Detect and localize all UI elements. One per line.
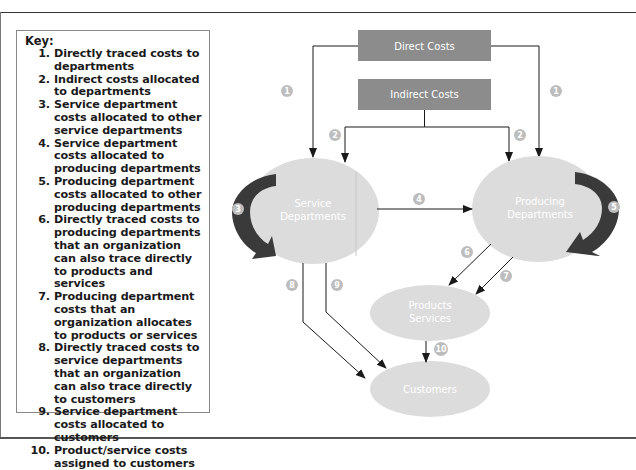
badge-7: 7: [500, 270, 512, 282]
badge-6: 6: [461, 246, 473, 258]
badge-1-left: 1: [281, 85, 293, 97]
badge-9: 9: [331, 279, 343, 291]
svg-text:9: 9: [334, 281, 340, 290]
arrow-2-right: [425, 127, 510, 161]
badge-1-right: 1: [550, 85, 562, 97]
customers-node: Customers: [370, 361, 490, 417]
svg-text:2: 2: [332, 131, 338, 140]
svg-text:5: 5: [611, 203, 617, 212]
producing-departments-label-1: Producing: [515, 196, 565, 207]
products-services-node: Products Services: [370, 285, 490, 341]
customers-label: Customers: [403, 384, 457, 395]
products-services-label-2: Services: [409, 313, 451, 324]
indirect-costs-box: Indirect Costs: [358, 79, 491, 110]
producing-departments-label-2: Departments: [507, 209, 573, 220]
service-departments-label-1: Service: [295, 198, 332, 209]
products-services-label-1: Products: [408, 300, 451, 311]
svg-text:1: 1: [553, 87, 559, 96]
badge-8: 8: [286, 279, 298, 291]
svg-text:1: 1: [284, 87, 290, 96]
arrow-1-right: [491, 46, 539, 157]
svg-text:4: 4: [416, 195, 422, 204]
badge-2-left: 2: [329, 129, 341, 141]
svg-text:10: 10: [435, 345, 447, 354]
arrow-2-left: [345, 127, 425, 162]
svg-text:6: 6: [464, 248, 470, 257]
key-item: 10.Product/service costs assigned to cus…: [25, 445, 205, 470]
key-item-text: Product/service costs assigned to custom…: [54, 445, 205, 470]
direct-costs-box: Direct Costs: [358, 30, 491, 61]
svg-text:8: 8: [289, 281, 295, 290]
key-item-number: 10.: [25, 445, 54, 470]
svg-text:2: 2: [517, 131, 523, 140]
svg-text:7: 7: [503, 272, 509, 281]
indirect-costs-label: Indirect Costs: [390, 89, 459, 100]
direct-costs-label: Direct Costs: [394, 41, 455, 52]
badge-5: 5: [608, 201, 620, 213]
service-departments-label-2: Departments: [280, 211, 346, 222]
svg-text:3: 3: [235, 205, 241, 214]
badge-4: 4: [413, 193, 425, 205]
badge-2-right: 2: [514, 129, 526, 141]
badge-3: 3: [232, 203, 244, 215]
badge-10: 10: [434, 342, 448, 356]
